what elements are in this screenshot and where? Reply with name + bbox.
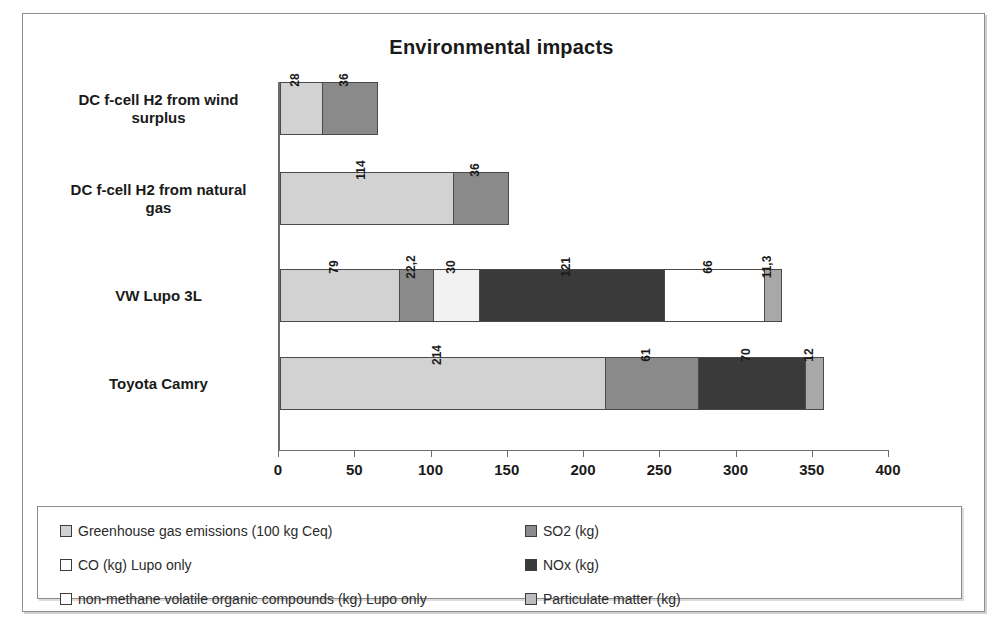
x-axis-tick — [583, 450, 584, 457]
legend-label: NOx (kg) — [543, 557, 599, 573]
bar-segment[interactable]: 11,3 — [765, 269, 782, 322]
x-axis-tick-label: 0 — [274, 461, 282, 478]
legend-item[interactable]: NOx (kg) — [525, 553, 681, 577]
category-label-line: gas — [51, 199, 266, 217]
bar-segment[interactable]: 114 — [280, 172, 454, 225]
category-label-line: DC f-cell H2 from natural — [51, 180, 266, 198]
bar-segment[interactable]: 61 — [606, 357, 699, 410]
bar-value-label: 66 — [702, 260, 714, 273]
x-axis-tick — [888, 450, 889, 457]
x-axis-tick-label: 150 — [494, 461, 519, 478]
category-label: Toyota Camry — [51, 374, 266, 392]
bar-value-label: 214 — [431, 345, 443, 365]
bar-value-label: 22,2 — [405, 255, 417, 278]
category-label: VW Lupo 3L — [51, 286, 266, 304]
chart-title: Environmental impacts — [23, 36, 984, 59]
legend-swatch-icon — [525, 559, 537, 571]
bar-segment[interactable]: 28 — [280, 82, 323, 135]
x-axis-tick-label: 300 — [723, 461, 748, 478]
bar-value-label: 36 — [469, 163, 481, 176]
bar-stack[interactable]: 7922,2301216611,3 — [280, 269, 782, 322]
x-axis-tick — [354, 450, 355, 457]
chart-title-text: Environmental impacts — [389, 36, 613, 59]
x-axis-tick-label: 400 — [875, 461, 900, 478]
legend-item[interactable]: Greenhouse gas emissions (100 kg Ceq) — [60, 519, 427, 543]
legend-item[interactable]: non-methane volatile organic compounds (… — [60, 587, 427, 611]
bar-segment[interactable]: 79 — [280, 269, 400, 322]
bar-segment[interactable]: 214 — [280, 357, 606, 410]
x-axis-tick-label: 350 — [799, 461, 824, 478]
bar-value-label: 28 — [289, 73, 301, 86]
legend-swatch-icon — [525, 525, 537, 537]
bar-value-label: 70 — [740, 348, 752, 361]
x-axis-tick — [812, 450, 813, 457]
x-axis-tick-label: 100 — [418, 461, 443, 478]
x-axis-tick-label: 50 — [346, 461, 363, 478]
bar-segment[interactable]: 36 — [323, 82, 378, 135]
bar-segment[interactable]: 66 — [665, 269, 766, 322]
category-label-line: Toyota Camry — [51, 374, 266, 392]
bar-segment[interactable]: 12 — [806, 357, 824, 410]
bar-value-label: 121 — [560, 257, 572, 277]
bar-value-label: 79 — [328, 260, 340, 273]
legend-swatch-icon — [60, 593, 72, 605]
legend-swatch-icon — [60, 525, 72, 537]
bar-segment[interactable]: 36 — [454, 172, 509, 225]
legend-label: Greenhouse gas emissions (100 kg Ceq) — [78, 523, 332, 539]
chart-legend: Greenhouse gas emissions (100 kg Ceq)CO … — [37, 506, 962, 599]
chart-frame: Environmental impacts DC f-cell H2 from … — [22, 13, 985, 612]
bar-segment[interactable]: 70 — [699, 357, 806, 410]
legend-column-right: SO2 (kg)NOx (kg)Particulate matter (kg) — [525, 519, 681, 621]
x-axis-tick — [431, 450, 432, 457]
legend-label: CO (kg) Lupo only — [78, 557, 192, 573]
category-label-line: surplus — [51, 109, 266, 127]
x-axis-tick — [507, 450, 508, 457]
x-axis-tick — [659, 450, 660, 457]
x-axis-tick — [736, 450, 737, 457]
category-label: DC f-cell H2 from naturalgas — [51, 180, 266, 217]
bar-segment[interactable]: 30 — [434, 269, 480, 322]
category-label-line: VW Lupo 3L — [51, 286, 266, 304]
category-label: DC f-cell H2 from windsurplus — [51, 90, 266, 127]
bar-value-label: 30 — [445, 260, 457, 273]
legend-item[interactable]: CO (kg) Lupo only — [60, 553, 427, 577]
legend-item[interactable]: SO2 (kg) — [525, 519, 681, 543]
x-axis-tick — [278, 450, 279, 457]
bar-value-label: 114 — [355, 160, 367, 179]
bar-value-label: 11,3 — [761, 256, 773, 279]
legend-column-left: Greenhouse gas emissions (100 kg Ceq)CO … — [60, 519, 427, 621]
legend-swatch-icon — [60, 559, 72, 571]
x-axis-tick-label: 250 — [647, 461, 672, 478]
bar-stack[interactable]: 214617012 — [280, 357, 824, 410]
legend-label: non-methane volatile organic compounds (… — [78, 591, 427, 607]
x-axis-tick-label: 200 — [570, 461, 595, 478]
plot-area: DC f-cell H2 from windsurplus2836DC f-ce… — [278, 69, 918, 444]
bar-stack[interactable]: 11436 — [280, 172, 509, 225]
legend-label: Particulate matter (kg) — [543, 591, 681, 607]
legend-label: SO2 (kg) — [543, 523, 599, 539]
bar-segment[interactable]: 22,2 — [400, 269, 434, 322]
legend-swatch-icon — [525, 593, 537, 605]
bar-value-label: 12 — [803, 348, 815, 361]
category-label-line: DC f-cell H2 from wind — [51, 90, 266, 108]
bar-segment[interactable]: 121 — [480, 269, 665, 322]
bar-stack[interactable]: 2836 — [280, 82, 378, 135]
bar-value-label: 36 — [338, 73, 350, 86]
legend-item[interactable]: Particulate matter (kg) — [525, 587, 681, 611]
bar-value-label: 61 — [640, 348, 652, 361]
